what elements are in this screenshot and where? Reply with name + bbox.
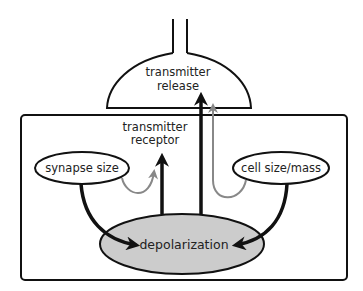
synapse-size-label: synapse size [45, 161, 118, 175]
transmitter-receptor-label-2: receptor [131, 133, 180, 147]
synapse-to-receptor-grey-arrow [122, 172, 154, 193]
synapse-feedback-diagram: transmitter release transmitter receptor… [0, 0, 363, 291]
transmitter-release-label-2: release [157, 79, 199, 93]
transmitter-receptor-label-1: transmitter [123, 120, 188, 134]
cell-size-label: cell size/mass [241, 161, 321, 175]
cell-to-release-grey-arrow [213, 106, 246, 197]
depolarization-label: depolarization [139, 237, 228, 252]
transmitter-release-label-1: transmitter [146, 65, 211, 79]
